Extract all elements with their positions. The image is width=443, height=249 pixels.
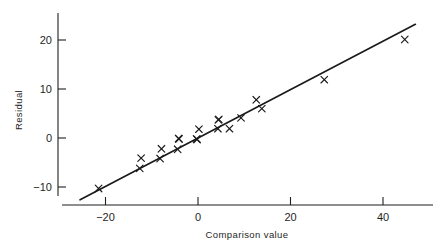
residual-vs-comparison-scatter-plot: −1001020 −2002040 Comparison value Resid… <box>0 0 443 249</box>
x-tick-label: 20 <box>284 211 296 223</box>
y-tick-label: 0 <box>46 132 52 144</box>
x-tick-label: −20 <box>96 211 115 223</box>
y-tick-label: 10 <box>40 83 52 95</box>
data-point <box>136 165 143 172</box>
x-axis-ticks <box>106 197 384 205</box>
y-tick-label: −10 <box>33 181 52 193</box>
x-axis-tick-labels: −2002040 <box>96 211 389 223</box>
data-point <box>321 76 328 83</box>
chart-figure: −1001020 −2002040 Comparison value Resid… <box>0 0 443 249</box>
y-axis-tick-labels: −1001020 <box>33 34 52 193</box>
reference-line <box>80 24 415 199</box>
x-tick-label: 0 <box>195 211 201 223</box>
data-point <box>158 145 165 152</box>
data-point-markers <box>95 36 408 192</box>
data-point <box>138 155 145 162</box>
x-tick-label: 40 <box>377 211 389 223</box>
data-point <box>259 105 266 112</box>
data-point <box>216 116 223 123</box>
data-point <box>253 96 260 103</box>
y-tick-label: 20 <box>40 34 52 46</box>
data-point <box>401 36 408 43</box>
x-axis-title: Comparison value <box>206 229 289 240</box>
y-axis-ticks <box>58 40 66 187</box>
y-axis-title: Residual <box>13 90 24 130</box>
data-point <box>226 125 233 132</box>
data-point <box>196 126 203 133</box>
data-point <box>176 136 183 143</box>
